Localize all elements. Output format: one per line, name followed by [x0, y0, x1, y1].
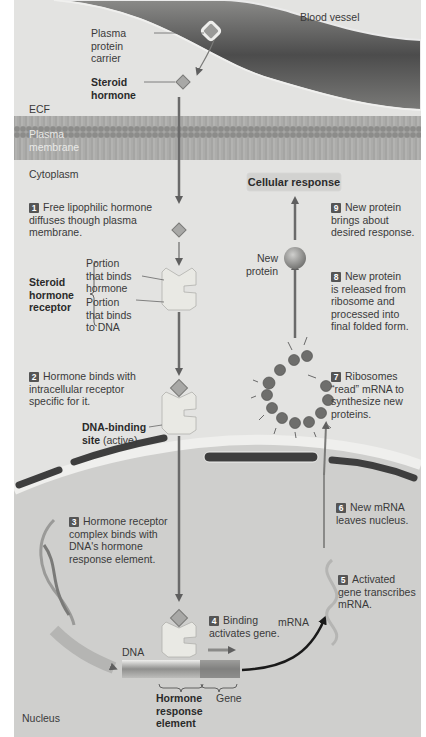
carrier-label: Plasma protein carrier: [91, 27, 126, 65]
diagram-canvas: Blood vessel ECF Plasma membrane Cytopla…: [14, 0, 421, 737]
dna-label: DNA: [122, 646, 144, 659]
gene-label: Gene: [216, 692, 242, 705]
dna-binding-site-label: DNA-binding site (active): [82, 421, 146, 446]
steroid-hormone-receptor-label: Steroid hormone receptor: [29, 276, 74, 314]
portion-binds-dna-label: Portion that binds to DNA: [86, 296, 132, 334]
step-5: 5Activated gene transcribes mRNA.: [338, 573, 416, 611]
cytoplasm-label: Cytoplasm: [29, 168, 79, 181]
step-3: 3Hormone receptor complex binds with DNA…: [69, 515, 168, 565]
steroid-hormone-label: Steroid hormone: [91, 76, 136, 101]
step-4: 4Binding activates gene.: [209, 614, 280, 639]
step-2: 2Hormone binds with intracellular recept…: [29, 370, 136, 408]
plasma-membrane-label-2: membrane: [29, 141, 79, 154]
portion-binds-hormone-label: Portion that binds hormone: [86, 257, 132, 295]
cellular-response-box: Cellular response: [246, 172, 342, 192]
nucleus-label: Nucleus: [22, 712, 60, 725]
blood-vessel-label: Blood vessel: [300, 11, 360, 24]
new-protein-label: New protein: [242, 252, 278, 277]
step-8: 8New protein is released from ribosome a…: [331, 270, 409, 333]
ecf-label: ECF: [29, 103, 50, 116]
step-9: 9New protein brings about desired respon…: [331, 201, 414, 239]
hormone-response-element-label: Hormone response element: [156, 692, 203, 730]
plasma-membrane-label-1: Plasma: [29, 128, 64, 141]
mrna-label: mRNA: [278, 616, 309, 629]
step-1: 1Free lipophilic hormone diffuses though…: [29, 201, 152, 239]
step-7: 7Ribosomes “read” mRNA to synthesize new…: [331, 370, 404, 420]
step-6: 6New mRNA leaves nucleus.: [336, 501, 408, 526]
